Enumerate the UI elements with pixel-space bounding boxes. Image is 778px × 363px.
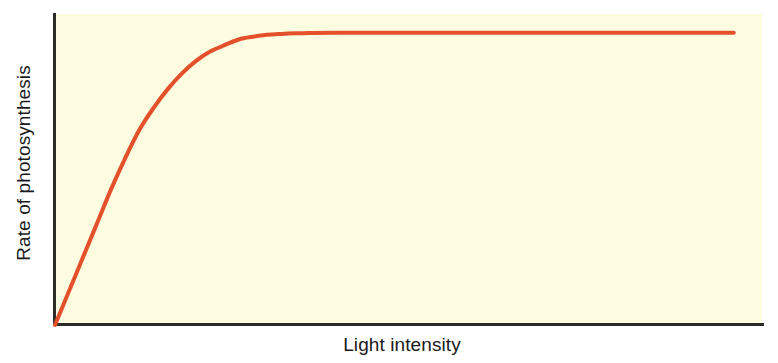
x-axis-title-label: Light intensity bbox=[343, 334, 461, 355]
photosynthesis-curve-path bbox=[55, 33, 734, 325]
photosynthesis-curve bbox=[55, 14, 762, 325]
y-axis-title-label: Rate of photosynthesis bbox=[13, 65, 35, 260]
x-axis-title: Light intensity bbox=[55, 334, 749, 356]
y-axis-title: Rate of photosynthesis bbox=[0, 0, 48, 325]
photosynthesis-light-response-chart: Rate of photosynthesis Light intensity bbox=[0, 0, 778, 363]
